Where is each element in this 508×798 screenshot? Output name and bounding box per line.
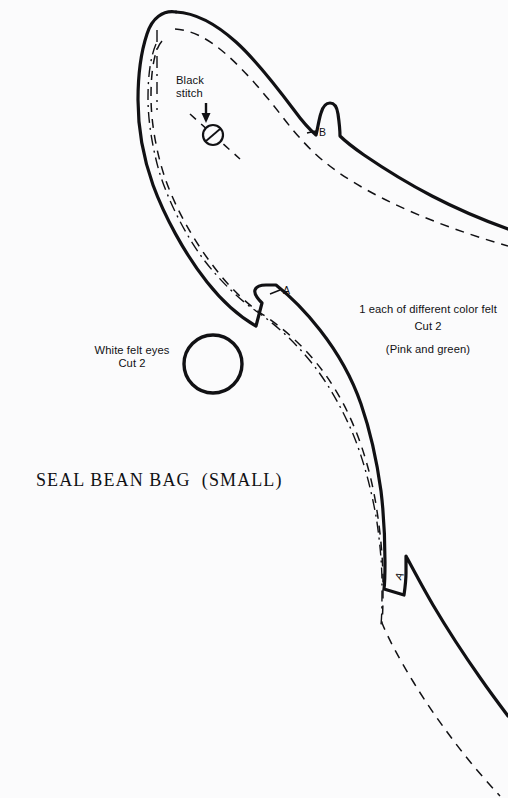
- notch-marker-a-upper: A: [283, 284, 290, 296]
- outline-upper-path: [176, 12, 508, 229]
- eye-circle-icon: [184, 335, 242, 393]
- seam-dashed-lower: [151, 41, 500, 796]
- seal-pattern-drawing: [0, 0, 508, 798]
- label-white-felt-eyes: White felt eyes Cut 2: [84, 344, 180, 370]
- marker-a-upper-leader: [270, 290, 280, 294]
- page-title: SEAL BEAN BAG (SMALL): [36, 470, 283, 491]
- label-material-note-line2: (Pink and green): [350, 343, 506, 356]
- fold-dashdot-line: [148, 44, 382, 625]
- stitch-arrow-icon: [202, 103, 211, 123]
- label-material-note-line1: 1 each of different color felt: [350, 303, 506, 316]
- label-material-cut-count: Cut 2: [350, 320, 506, 333]
- notch-marker-b: B: [319, 126, 326, 138]
- pattern-sheet: Black stitch 1 each of different color f…: [0, 0, 508, 798]
- label-black-stitch: Black stitch: [176, 74, 204, 100]
